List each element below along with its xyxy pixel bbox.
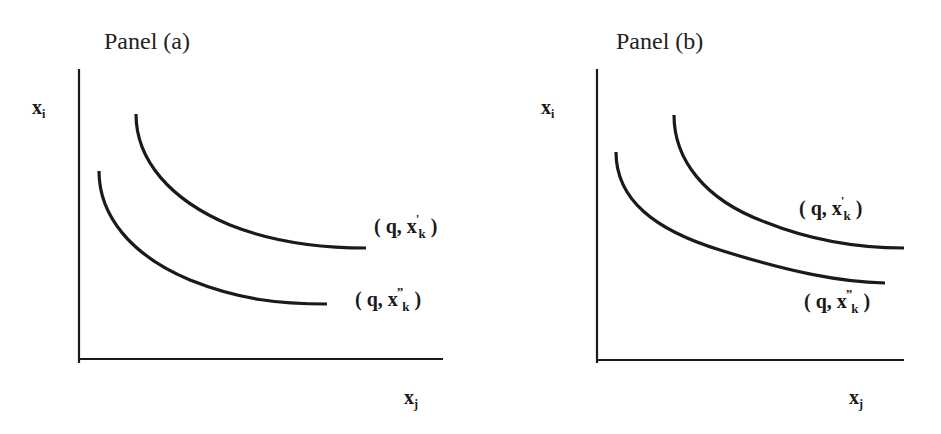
label-suffix: ) bbox=[859, 290, 871, 312]
label-sub: k bbox=[418, 226, 425, 241]
label-suffix: ) bbox=[851, 197, 863, 219]
panel-a-title: Panel (a) bbox=[104, 28, 190, 55]
label-sub: k bbox=[851, 301, 858, 316]
label-prime: ' bbox=[841, 193, 845, 208]
label-sub: k bbox=[843, 208, 850, 223]
axis-label-sub: j bbox=[859, 397, 863, 411]
axis-label-sub: i bbox=[551, 107, 554, 121]
panel-b-y-axis-label: xi bbox=[541, 96, 554, 122]
label-prime: ” bbox=[846, 286, 853, 301]
label-prefix: ( q, x bbox=[804, 290, 847, 312]
label-prime: ' bbox=[416, 211, 420, 226]
panel-a-lower-curve-label: ( q, x”k ) bbox=[355, 288, 421, 311]
panel-b-title: Panel (b) bbox=[616, 28, 703, 55]
panel-b-lower-curve-label: ( q, x”k ) bbox=[804, 290, 870, 313]
axis-label-base: x bbox=[541, 96, 551, 118]
axis-label-base: x bbox=[849, 386, 859, 408]
label-prefix: ( q, x bbox=[355, 288, 398, 310]
label-prefix: ( q, x bbox=[374, 215, 417, 237]
panel-a-lower-isoquant bbox=[99, 171, 327, 304]
label-sub: k bbox=[402, 299, 409, 314]
panel-a-upper-curve-label: ( q, x'k ) bbox=[374, 215, 437, 238]
axis-label-sub: i bbox=[42, 107, 45, 121]
panel-b-x-axis-label: xj bbox=[849, 386, 863, 412]
label-prefix: ( q, x bbox=[799, 197, 842, 219]
panel-a-x-axis-label: xj bbox=[404, 386, 418, 412]
label-suffix: ) bbox=[410, 288, 422, 310]
label-prime: ” bbox=[397, 284, 404, 299]
axis-label-sub: j bbox=[414, 397, 418, 411]
label-suffix: ) bbox=[426, 215, 438, 237]
panel-b-upper-isoquant bbox=[674, 115, 904, 248]
panel-a-y-axis-label: xi bbox=[32, 96, 45, 122]
panel-b-upper-curve-label: ( q, x'k ) bbox=[799, 197, 862, 220]
axis-label-base: x bbox=[32, 96, 42, 118]
panel-a-upper-isoquant bbox=[136, 114, 366, 248]
axis-label-base: x bbox=[404, 386, 414, 408]
